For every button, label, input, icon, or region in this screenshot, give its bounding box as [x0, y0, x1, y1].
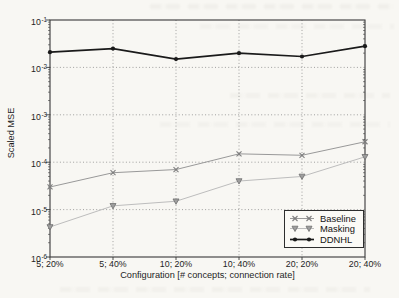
ddnhl-marker	[111, 46, 115, 50]
ddnhl-marker	[300, 54, 304, 58]
ddnhl-marker	[293, 237, 297, 241]
legend-label: DDNHL	[320, 235, 352, 244]
legend: Baseline Masking DDNHL	[284, 210, 364, 248]
y-tick-label: 10-5	[12, 205, 47, 217]
plot-area	[0, 0, 399, 298]
series-line-ddnhl	[50, 46, 365, 59]
x-tick-label: 20; 20%	[277, 259, 327, 269]
ddnhl-marker	[174, 57, 178, 61]
scanned-figure: 10-110-210-310-410-510-6 5; 20%5; 40%10;…	[0, 0, 399, 298]
x-tick-label: 5; 40%	[88, 259, 138, 269]
dot-marker-line-icon	[289, 234, 315, 245]
y-axis-title: Scaled MSE	[6, 108, 16, 159]
y-tick-label: 10-3	[12, 110, 47, 122]
legend-item-ddnhl: DDNHL	[289, 234, 360, 245]
legend-label: Baseline	[320, 214, 356, 223]
legend-item-baseline: Baseline	[289, 213, 360, 224]
x-tick-label: 10; 20%	[151, 259, 201, 269]
masking-marker	[47, 225, 53, 230]
ddnhl-marker	[363, 44, 367, 48]
ddnhl-marker	[307, 237, 311, 241]
x-tick-label: 10; 40%	[214, 259, 264, 269]
x-marker-line-icon	[289, 213, 315, 224]
y-tick-label: 10-2	[12, 62, 47, 74]
legend-item-masking: Masking	[289, 224, 360, 235]
legend-label: Masking	[320, 224, 355, 233]
y-tick-label: 10-1	[12, 15, 47, 27]
series-line-baseline	[50, 142, 365, 187]
x-axis-title: Configuration [# concepts; connection ra…	[50, 270, 365, 280]
x-tick-label: 5; 20%	[25, 259, 75, 269]
ddnhl-marker	[48, 50, 52, 54]
x-tick-label: 20; 40%	[340, 259, 390, 269]
triangle-down-marker-line-icon	[289, 223, 315, 234]
y-tick-label: 10-4	[12, 157, 47, 169]
ddnhl-marker	[237, 51, 241, 55]
